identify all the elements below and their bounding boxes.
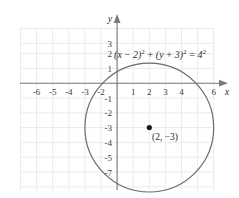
x-tick-label: 4	[179, 87, 184, 97]
x-axis	[20, 80, 228, 87]
equation-term2-operator: +	[164, 49, 175, 60]
equation-plus-operator: +	[145, 49, 156, 60]
y-tick-label: 2	[108, 49, 113, 59]
equation-term1-operator: −	[122, 49, 133, 60]
y-tick-label: -3	[105, 123, 113, 133]
center-point-marker	[147, 125, 152, 130]
y-tick-label: -2	[105, 108, 113, 118]
x-tick-label: -5	[49, 87, 57, 97]
y-axis	[114, 14, 121, 190]
coordinate-plane: -6 -5 -4 -3 -2 1 2 3 4 6 3 2 1 -1 -2 -3 …	[0, 0, 239, 198]
y-axis-label: y	[107, 13, 113, 24]
y-tick-label: -4	[105, 138, 113, 148]
y-tick-label: 3	[108, 39, 113, 49]
equation-term2-value: 3)	[175, 49, 184, 60]
x-axis-label: x	[224, 86, 230, 97]
x-tick-label: 1	[131, 87, 136, 97]
x-tick-label: -3	[81, 87, 89, 97]
center-point-label: (2, −3)	[152, 132, 178, 143]
x-tick-labels: -6 -5 -4 -3 -2 1 2 3 4 6	[33, 87, 217, 97]
y-tick-labels: 3 2 1 -1 -2 -3 -4 -5 -7	[105, 39, 113, 178]
x-tick-label: 3	[163, 87, 168, 97]
equation-equals-sign: =	[187, 49, 198, 60]
circle-equation-annotation: (x − 2)2 + (y + 3)2 = 42	[114, 49, 206, 60]
equation-term2-open: (y	[156, 49, 164, 60]
y-tick-label: 1	[108, 64, 113, 74]
x-tick-label: 6	[211, 87, 216, 97]
equation-rhs-exponent: 2	[203, 48, 206, 55]
y-tick-label: -7	[105, 168, 113, 178]
equation-term1-open: (x	[114, 49, 122, 60]
y-tick-label: -1	[105, 94, 113, 104]
x-tick-label: -6	[33, 87, 41, 97]
x-tick-label: -4	[65, 87, 73, 97]
x-tick-label: 2	[147, 87, 152, 97]
y-tick-label: -5	[105, 153, 113, 163]
circle-graph-figure: -6 -5 -4 -3 -2 1 2 3 4 6 3 2 1 -1 -2 -3 …	[0, 0, 239, 198]
